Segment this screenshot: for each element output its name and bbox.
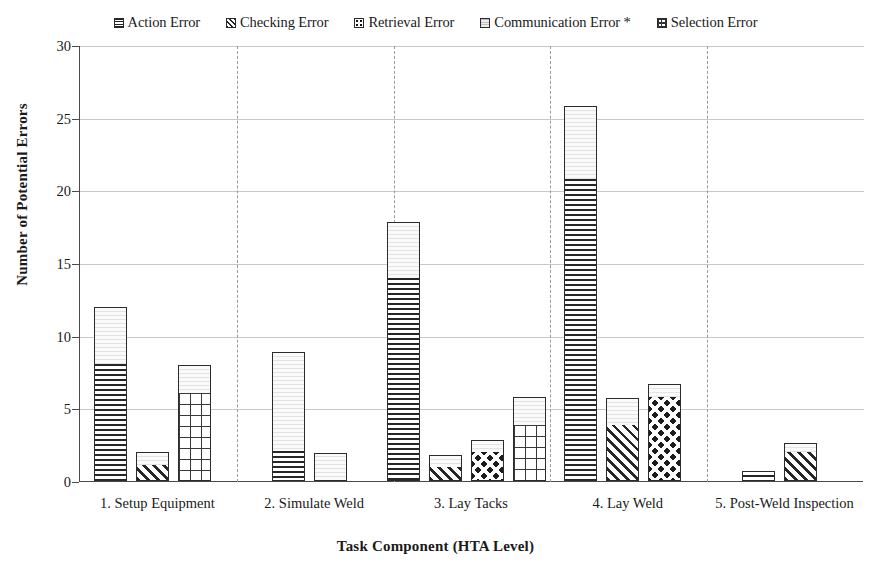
selection-error-swatch-icon xyxy=(657,18,667,28)
gridline xyxy=(80,191,864,192)
bar-segment-communication xyxy=(273,352,304,451)
legend-label: Communication Error * xyxy=(494,14,630,31)
bar-segment-communication xyxy=(514,397,545,425)
bar-segment-communication xyxy=(430,455,461,467)
bar-segment-base xyxy=(514,425,545,480)
bar-stack xyxy=(314,453,347,481)
legend-label: Selection Error xyxy=(671,14,758,31)
y-tick-label: 10 xyxy=(39,330,71,345)
bar-segment-base xyxy=(472,452,503,480)
bar-stack xyxy=(387,222,420,481)
plot-area xyxy=(79,46,863,482)
y-tick-mark xyxy=(72,482,79,483)
bar-segment-communication xyxy=(785,443,816,452)
bar-stack xyxy=(471,440,504,481)
bar-stack xyxy=(564,106,597,481)
y-tick-mark xyxy=(72,191,79,192)
y-axis-title: Number of Potential Errors xyxy=(14,0,31,405)
bar-segment-communication xyxy=(95,307,126,364)
bar-segment-communication xyxy=(607,398,638,425)
bar-stack xyxy=(429,455,462,481)
bar-stack xyxy=(178,365,211,481)
bar-segment-base xyxy=(137,465,168,480)
bar-segment-communication xyxy=(315,453,346,480)
bar-stack xyxy=(648,384,681,481)
bar-segment-base xyxy=(430,467,461,480)
bar-segment-base xyxy=(273,451,304,480)
y-tick-mark xyxy=(72,409,79,410)
bar-stack xyxy=(272,352,305,481)
bar-segment-communication xyxy=(137,452,168,466)
bar-segment-communication xyxy=(388,222,419,278)
x-category-label: 1. Setup Equipment xyxy=(79,495,236,512)
x-axis-title: Task Component (HTA Level) xyxy=(0,538,871,555)
bar-stack xyxy=(784,443,817,481)
y-tick-label: 30 xyxy=(39,39,71,54)
bar-stack xyxy=(742,471,775,481)
bar-segment-base xyxy=(743,471,774,480)
legend-item-selection-error: Selection Error xyxy=(657,14,758,31)
y-tick-mark xyxy=(72,119,79,120)
x-category-label: 5. Post-Weld Inspection xyxy=(706,495,863,512)
y-tick-label: 0 xyxy=(39,475,71,490)
legend-label: Checking Error xyxy=(240,14,328,31)
y-tick-label: 20 xyxy=(39,184,71,199)
y-tick-label: 25 xyxy=(39,112,71,127)
bar-segment-base xyxy=(179,393,210,480)
bar-stack xyxy=(606,398,639,481)
bar-segment-base xyxy=(785,452,816,480)
bar-segment-communication xyxy=(472,440,503,452)
legend-item-retrieval-error: Retrieval Error xyxy=(354,14,454,31)
legend-label: Retrieval Error xyxy=(368,14,454,31)
gridline xyxy=(80,264,864,265)
bar-segment-base xyxy=(95,364,126,480)
legend-item-action-error: Action Error xyxy=(114,14,200,31)
bar-segment-base xyxy=(565,179,596,480)
bar-segment-communication xyxy=(649,384,680,398)
group-separator xyxy=(237,46,238,482)
y-tick-mark xyxy=(72,264,79,265)
gridline xyxy=(80,337,864,338)
bar-stack xyxy=(136,452,169,481)
gridline xyxy=(80,119,864,120)
bar-segment-base xyxy=(388,278,419,480)
retrieval-error-swatch-icon xyxy=(354,18,364,28)
bar-stack xyxy=(513,397,546,481)
gridline xyxy=(80,46,864,47)
legend-item-communication-error: Communication Error * xyxy=(480,14,630,31)
bar-segment-communication xyxy=(565,106,596,179)
checking-error-swatch-icon xyxy=(226,18,236,28)
legend-label: Action Error xyxy=(128,14,200,31)
chart-legend: Action Error Checking Error Retrieval Er… xyxy=(0,14,871,31)
y-tick-label: 5 xyxy=(39,402,71,417)
bar-segment-communication xyxy=(179,365,210,393)
x-category-label: 3. Lay Tacks xyxy=(393,495,550,512)
y-tick-label: 15 xyxy=(39,257,71,272)
group-separator xyxy=(550,46,551,482)
communication-error-swatch-icon xyxy=(480,18,490,28)
group-separator xyxy=(707,46,708,482)
x-category-label: 2. Simulate Weld xyxy=(236,495,393,512)
bar-stack xyxy=(94,307,127,481)
bar-segment-base xyxy=(607,425,638,480)
action-error-swatch-icon xyxy=(114,18,124,28)
bar-segment-base xyxy=(649,397,680,480)
y-tick-mark xyxy=(72,46,79,47)
x-category-label: 4. Lay Weld xyxy=(549,495,706,512)
legend-item-checking-error: Checking Error xyxy=(226,14,328,31)
y-tick-mark xyxy=(72,337,79,338)
